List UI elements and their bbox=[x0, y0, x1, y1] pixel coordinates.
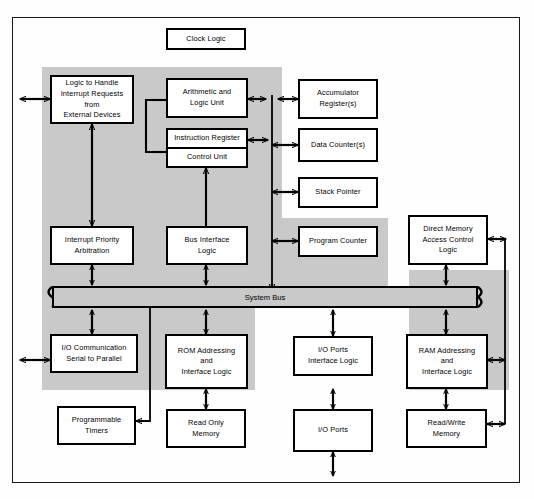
block-interrupt-priority-arbitration[interactable]: Interrupt Priority Arbitration bbox=[50, 226, 134, 265]
clock-logic-label: Clock Logic bbox=[169, 34, 243, 45]
dma-line1: Direct Memory bbox=[411, 224, 485, 235]
block-ram-addressing[interactable]: RAM Addressing and Interface Logic bbox=[406, 334, 488, 389]
system-bus[interactable]: System Bus bbox=[52, 286, 478, 308]
dma-line3: Logic bbox=[411, 245, 485, 256]
alu-line2: Logic Unit bbox=[169, 98, 245, 109]
read-only-memory-line2: Memory bbox=[169, 429, 243, 440]
interrupt-logic-line1: Logic to Handle bbox=[53, 78, 131, 89]
diagram-canvas: Clock Logic Logic to Handle Interrupt Re… bbox=[0, 0, 534, 499]
io-comm-line2: Serial to Parallel bbox=[53, 354, 135, 365]
block-arithmetic-logic-unit[interactable]: Arithmetic and Logic Unit bbox=[166, 78, 248, 118]
control-unit-label: Control Unit bbox=[168, 152, 246, 163]
read-write-memory-line1: Read/Write bbox=[409, 418, 484, 429]
accumulator-line2: Register(s) bbox=[301, 99, 375, 110]
read-write-memory-line2: Memory bbox=[409, 429, 484, 440]
block-read-only-memory[interactable]: Read Only Memory bbox=[166, 409, 246, 448]
instruction-register-label: Instruction Register bbox=[168, 133, 246, 144]
block-stack-pointer[interactable]: Stack Pointer bbox=[298, 177, 378, 208]
program-counter-label: Program Counter bbox=[301, 236, 375, 247]
block-rom-addressing[interactable]: ROM Addressing and Interface Logic bbox=[165, 334, 248, 389]
block-read-write-memory[interactable]: Read/Write Memory bbox=[406, 409, 487, 448]
io-ports-label: I/O Ports bbox=[296, 425, 370, 436]
block-io-ports-interface-logic[interactable]: I/O Ports Interface Logic bbox=[293, 336, 373, 376]
block-interrupt-handling-logic[interactable]: Logic to Handle Interrupt Requests from … bbox=[50, 75, 134, 124]
programmable-timers-line1: Programmable bbox=[60, 415, 133, 426]
alu-line1: Arithmetic and bbox=[169, 87, 245, 98]
block-data-counters[interactable]: Data Counter(s) bbox=[298, 128, 378, 162]
rom-addressing-line3: Interface Logic bbox=[168, 367, 245, 378]
block-io-ports[interactable]: I/O Ports bbox=[293, 409, 373, 452]
io-ports-if-line1: I/O Ports bbox=[296, 345, 370, 356]
bus-interface-line2: Logic bbox=[169, 246, 245, 257]
interrupt-logic-line2: Interrupt Requests bbox=[53, 89, 131, 100]
block-io-communication[interactable]: I/O Communication Serial to Parallel bbox=[50, 334, 138, 373]
read-only-memory-line1: Read Only bbox=[169, 418, 243, 429]
accumulator-line1: Accumulator bbox=[301, 88, 375, 99]
ram-addressing-line3: Interface Logic bbox=[409, 367, 485, 378]
block-control-unit[interactable]: Control Unit bbox=[168, 149, 246, 166]
block-program-counter[interactable]: Program Counter bbox=[298, 226, 378, 257]
io-comm-line1: I/O Communication bbox=[53, 343, 135, 354]
interrupt-priority-line1: Interrupt Priority bbox=[53, 235, 131, 246]
block-accumulator-registers[interactable]: Accumulator Register(s) bbox=[298, 79, 378, 119]
io-ports-if-line2: Interface Logic bbox=[296, 356, 370, 367]
system-bus-label: System Bus bbox=[245, 293, 286, 302]
block-programmable-timers[interactable]: Programmable Timers bbox=[57, 406, 136, 445]
interrupt-priority-line2: Arbitration bbox=[53, 246, 131, 257]
interrupt-logic-line4: External Devices bbox=[53, 110, 131, 121]
rom-addressing-line2: and bbox=[168, 356, 245, 367]
programmable-timers-line2: Timers bbox=[60, 426, 133, 437]
bus-interface-line1: Bus Interface bbox=[169, 235, 245, 246]
block-dma-control-logic[interactable]: Direct Memory Access Control Logic bbox=[408, 215, 488, 265]
dma-line2: Access Control bbox=[411, 235, 485, 246]
block-instruction-register-control-unit[interactable]: Instruction Register Control Unit bbox=[166, 128, 248, 168]
interrupt-logic-line3: from bbox=[53, 100, 131, 111]
rom-addressing-line1: ROM Addressing bbox=[168, 346, 245, 357]
stack-pointer-label: Stack Pointer bbox=[301, 187, 375, 198]
ram-addressing-line1: RAM Addressing bbox=[409, 346, 485, 357]
block-bus-interface-logic[interactable]: Bus Interface Logic bbox=[166, 226, 248, 265]
block-clock-logic[interactable]: Clock Logic bbox=[166, 28, 246, 50]
block-instruction-register[interactable]: Instruction Register bbox=[168, 130, 246, 149]
ram-addressing-line2: and bbox=[409, 356, 485, 367]
data-counters-label: Data Counter(s) bbox=[301, 140, 375, 151]
